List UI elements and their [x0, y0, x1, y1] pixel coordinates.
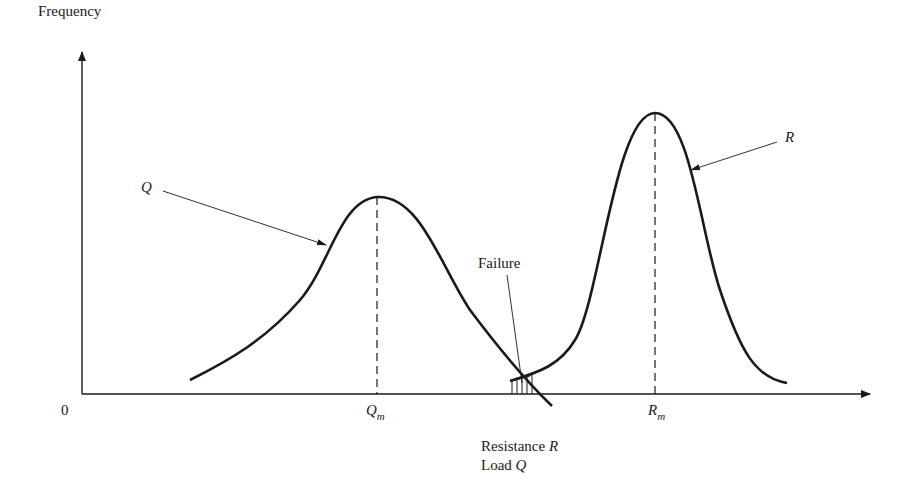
- x-axis-label-resistance-var: R: [549, 438, 558, 454]
- r-curve-label: R: [785, 130, 794, 145]
- r-leader-arrow: [691, 142, 777, 170]
- stress-strength-diagram: [0, 0, 917, 496]
- y-axis-label: Frequency: [38, 4, 101, 19]
- x-axis-label-resistance-text: Resistance: [481, 438, 549, 454]
- rm-tick-label: Rm: [648, 403, 665, 418]
- origin-label: 0: [61, 403, 69, 418]
- rm-subscript: m: [657, 410, 665, 422]
- r-resistance-curve: [510, 113, 787, 383]
- q-leader-arrow: [163, 191, 326, 245]
- q-load-curve: [190, 197, 552, 406]
- qm-main: Q: [366, 402, 377, 418]
- rm-main: R: [648, 402, 657, 418]
- x-axis-label-resistance: Resistance R: [481, 439, 558, 454]
- failure-label: Failure: [478, 256, 521, 271]
- q-curve-label: Q: [141, 180, 152, 195]
- qm-subscript: m: [377, 410, 385, 422]
- x-axis-label-load-text: Load: [481, 457, 516, 473]
- x-axis-label-load: Load Q: [481, 458, 526, 473]
- x-axis-label-load-var: Q: [516, 457, 527, 473]
- qm-tick-label: Qm: [366, 403, 385, 418]
